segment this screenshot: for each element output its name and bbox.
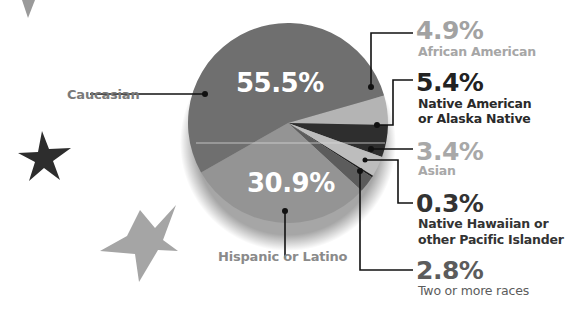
hispanic-label: Hispanic or Latino <box>218 249 347 264</box>
caucasian-pct: 55.5% <box>236 68 324 98</box>
two-or-more-label: Two or more races <box>418 283 529 298</box>
african-american-label: African American <box>418 44 536 59</box>
native-american-pct: 5.4% <box>416 70 483 95</box>
star-decoration-top <box>22 0 35 18</box>
caucasian-label: Caucasian <box>67 87 139 102</box>
asian-label: Asian <box>418 163 456 178</box>
hawaiian-pct: 0.3% <box>416 191 483 216</box>
star-decoration-light <box>100 205 178 282</box>
hispanic-pct: 30.9% <box>247 168 335 198</box>
star-decoration-dark <box>18 131 71 181</box>
african-american-pct: 4.9% <box>416 18 483 43</box>
asian-pct: 3.4% <box>416 139 483 164</box>
native-american-label-line1: Native American <box>418 96 532 111</box>
hawaiian-label-line2: other Pacific Islander <box>418 232 564 247</box>
two-or-more-pct: 2.8% <box>416 258 483 283</box>
hawaiian-label-line1: Native Hawaiian or <box>418 216 548 231</box>
native-american-label-line2: or Alaska Native <box>418 111 531 126</box>
